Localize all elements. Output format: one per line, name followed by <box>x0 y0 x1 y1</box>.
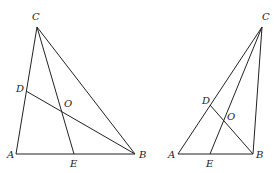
segment-BC <box>37 27 135 154</box>
label-B: B <box>255 149 263 160</box>
label-D: D <box>15 83 24 94</box>
label-C: C <box>262 11 270 22</box>
label-C: C <box>32 11 40 22</box>
segment-AC <box>178 27 262 154</box>
right-figure: A B C D E O <box>167 11 270 169</box>
label-O: O <box>64 98 72 109</box>
label-B: B <box>138 149 146 160</box>
label-D: D <box>201 95 210 106</box>
label-O: O <box>227 111 235 122</box>
label-E: E <box>205 158 214 169</box>
left-figure: A B C D E O <box>6 11 146 169</box>
label-E: E <box>69 158 78 169</box>
geometry-diagram: A B C D E O A B C D E O <box>0 0 276 173</box>
label-A: A <box>6 149 14 160</box>
label-A: A <box>167 149 175 160</box>
segment-BD <box>26 91 135 154</box>
segment-CE <box>37 27 74 154</box>
